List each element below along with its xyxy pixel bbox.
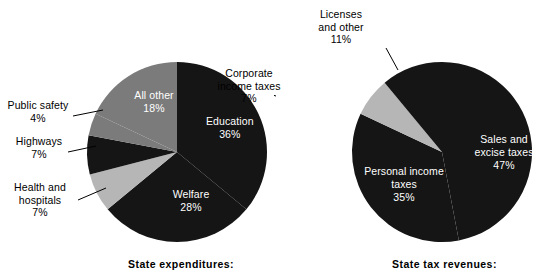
- slice-label-welfare-value: 28%: [152, 201, 230, 214]
- slice-label-personal-line1: Personal income: [354, 165, 454, 178]
- slice-callout-health-line1: Health and: [2, 181, 78, 194]
- slice-callout-health-value: 7%: [2, 206, 78, 219]
- slice-label-all-other-value: 18%: [115, 102, 193, 115]
- slice-label-sales-value: 47%: [460, 159, 547, 172]
- slice-callout-highways: Highways 7%: [8, 135, 70, 160]
- slice-callout-public-safety-value: 4%: [2, 112, 74, 125]
- slice-label-sales-line2: excise taxes: [460, 146, 547, 159]
- slice-callout-corporate-income-taxes: Corporate income taxes 7%: [200, 67, 298, 105]
- slice-label-all-other: All other 18%: [115, 89, 193, 115]
- slice-label-personal-value: 35%: [354, 191, 454, 204]
- pie-charts-figure: Education 36% Welfare 28% All other 18% …: [0, 0, 547, 274]
- slice-callout-health-and-hospitals: Health and hospitals 7%: [2, 181, 78, 219]
- slice-label-education-name: Education: [206, 115, 254, 128]
- caption-state-tax-revenues: State tax revenues:: [392, 258, 497, 270]
- slice-callout-corporate-line1: Corporate: [200, 67, 298, 80]
- slice-callout-licenses-line1: Licenses: [295, 8, 387, 21]
- slice-label-welfare-name: Welfare: [152, 188, 230, 201]
- caption-state-expenditures: State expenditures:: [128, 258, 234, 270]
- slice-callout-highways-value: 7%: [8, 148, 70, 161]
- slice-callout-corporate-value: 7%: [200, 92, 298, 105]
- slice-label-all-other-name: All other: [115, 89, 193, 102]
- slice-label-welfare: Welfare 28%: [152, 188, 230, 214]
- leader-line-licenses-and-other: [386, 48, 398, 70]
- slice-label-sales-and-excise-taxes: Sales and excise taxes 47%: [460, 133, 547, 172]
- panel-state-tax-revenues: Sales and excise taxes 47% Personal inco…: [274, 0, 547, 274]
- slice-callout-corporate-line2: income taxes: [200, 80, 298, 93]
- slice-callout-licenses-and-other: Licenses and other 11%: [295, 8, 387, 46]
- slice-callout-health-line2: hospitals: [2, 194, 78, 207]
- slice-callout-licenses-value: 11%: [295, 33, 387, 46]
- slice-callout-highways-name: Highways: [8, 135, 70, 148]
- slice-label-sales-line1: Sales and: [460, 133, 547, 146]
- panel-state-expenditures: Education 36% Welfare 28% All other 18% …: [0, 0, 273, 274]
- slice-label-personal-income-taxes: Personal income taxes 35%: [354, 165, 454, 204]
- slice-label-education: Education 36%: [206, 115, 254, 141]
- slice-callout-public-safety: Public safety 4%: [2, 99, 74, 124]
- slice-callout-public-safety-name: Public safety: [2, 99, 74, 112]
- slice-label-personal-line2: taxes: [354, 178, 454, 191]
- slice-callout-licenses-line2: and other: [295, 21, 387, 34]
- slice-label-education-value: 36%: [206, 128, 254, 141]
